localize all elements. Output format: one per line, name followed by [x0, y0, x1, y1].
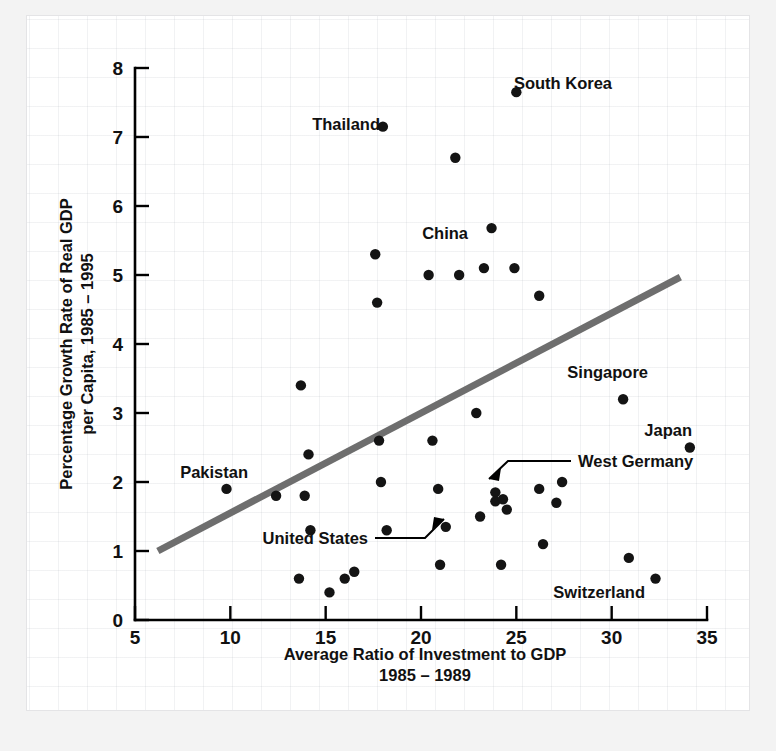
data-point — [471, 408, 481, 418]
data-point-pakistan — [221, 484, 231, 494]
annotation-switzerland: Switzerland — [553, 583, 645, 601]
scatter-plot: 012345678 5101520253035 South Korea Thai… — [0, 0, 776, 751]
y-tick-label: 0 — [112, 610, 123, 631]
annotation-south-korea: South Korea — [514, 74, 613, 92]
annotation-west-germany: West Germany — [578, 452, 694, 470]
y-axis-title-line2: per Capita, 1985 – 1995 — [78, 253, 96, 435]
data-point — [551, 498, 561, 508]
data-point — [496, 560, 506, 570]
y-tick-label: 7 — [112, 127, 123, 148]
y-tick-group: 012345678 — [112, 58, 149, 631]
x-tick-label: 5 — [130, 627, 141, 648]
data-point — [303, 449, 313, 459]
y-tick-label: 8 — [112, 58, 123, 79]
west-germany-arrowhead — [489, 468, 501, 481]
data-point — [294, 573, 304, 583]
data-point — [475, 511, 485, 521]
data-point — [502, 504, 512, 514]
data-point — [427, 435, 437, 445]
x-tick-group: 5101520253035 — [130, 606, 718, 648]
leader-lines-group — [375, 461, 571, 538]
x-axis-title-line1: Average Ratio of Investment to GDP — [284, 645, 567, 663]
x-tick-label: 35 — [696, 627, 718, 648]
data-point — [534, 291, 544, 301]
data-point — [509, 263, 519, 273]
x-tick-label: 30 — [601, 627, 622, 648]
y-tick-label: 2 — [112, 472, 123, 493]
data-point — [372, 297, 382, 307]
data-point — [538, 539, 548, 549]
data-point — [534, 484, 544, 494]
trend-line — [158, 277, 680, 551]
x-tick-label: 10 — [220, 627, 241, 648]
figure-container: 012345678 5101520253035 South Korea Thai… — [0, 0, 776, 751]
data-point — [381, 525, 391, 535]
data-point — [296, 380, 306, 390]
data-point — [557, 477, 567, 487]
x-axis-title-line2: 1985 – 1989 — [379, 666, 471, 684]
data-point — [435, 560, 445, 570]
data-point — [450, 153, 460, 163]
data-point — [423, 270, 433, 280]
x-axis-title: Average Ratio of Investment to GDP 1985 … — [284, 645, 567, 684]
annotation-united-states: United States — [263, 529, 368, 547]
data-point — [498, 494, 508, 504]
data-point — [479, 263, 489, 273]
y-axis-title-line1: Percentage Growth Rate of Real GDP — [57, 198, 75, 490]
data-point — [433, 484, 443, 494]
data-point — [324, 587, 334, 597]
data-point-switzerland — [650, 573, 660, 583]
y-tick-label: 6 — [112, 196, 123, 217]
y-tick-label: 3 — [112, 403, 123, 424]
data-point-singapore — [618, 394, 628, 404]
data-point — [370, 249, 380, 259]
data-point — [374, 435, 384, 445]
data-point — [454, 270, 464, 280]
data-point — [299, 491, 309, 501]
y-axis-title: Percentage Growth Rate of Real GDP per C… — [57, 198, 96, 490]
data-point-united-states — [441, 522, 451, 532]
annotation-japan: Japan — [644, 421, 692, 439]
data-point-china — [486, 223, 496, 233]
data-point — [340, 573, 350, 583]
y-tick-label: 4 — [112, 334, 123, 355]
annotation-thailand: Thailand — [312, 115, 380, 133]
y-tick-label: 1 — [112, 541, 123, 562]
data-point — [376, 477, 386, 487]
y-tick-label: 5 — [112, 265, 123, 286]
annotation-pakistan: Pakistan — [180, 463, 248, 481]
data-point — [271, 491, 281, 501]
annotation-china: China — [422, 224, 469, 242]
data-points-group — [221, 87, 695, 598]
west-germany-leader-line — [489, 461, 571, 479]
data-point — [349, 567, 359, 577]
annotation-singapore: Singapore — [567, 363, 648, 381]
data-point — [624, 553, 634, 563]
